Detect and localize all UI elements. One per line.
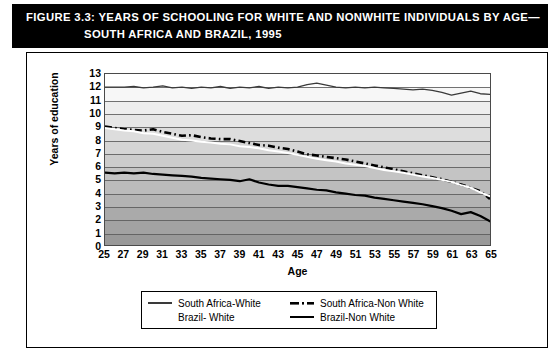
x-tick-label: 51 bbox=[350, 249, 362, 260]
y-axis-tick-labels: 012345678910111213 bbox=[76, 73, 101, 246]
x-tick-label: 65 bbox=[485, 249, 497, 260]
x-tick-label: 29 bbox=[137, 249, 149, 260]
x-tick-label: 35 bbox=[195, 249, 207, 260]
y-tick-label: 9 bbox=[95, 121, 101, 132]
y-tick-label: 1 bbox=[95, 227, 101, 238]
y-tick-label: 4 bbox=[95, 188, 101, 199]
series-line bbox=[105, 83, 490, 95]
legend-item-south-africa-white: South Africa-White bbox=[148, 298, 290, 309]
x-tick-label: 39 bbox=[234, 249, 246, 260]
x-tick-label: 45 bbox=[292, 249, 304, 260]
legend-label: Brazil-Non White bbox=[320, 312, 395, 323]
chart-legend: South Africa-White South Africa-Non Whit… bbox=[141, 291, 437, 329]
x-tick-label: 49 bbox=[330, 249, 342, 260]
chart-panel: Years of education 012345678910111213 25… bbox=[26, 52, 548, 348]
y-tick-label: 6 bbox=[95, 161, 101, 172]
legend-swatch-thick-line-black bbox=[290, 312, 314, 322]
plot-area bbox=[104, 73, 491, 246]
legend-label: South Africa-Non White bbox=[320, 298, 424, 309]
x-tick-label: 63 bbox=[466, 249, 478, 260]
legend-item-brazil-non-white: Brazil-Non White bbox=[290, 312, 395, 323]
x-tick-label: 61 bbox=[446, 249, 458, 260]
y-tick-label: 10 bbox=[89, 108, 101, 119]
figure-container: FIGURE 3.3: YEARS OF SCHOOLING FOR WHITE… bbox=[0, 0, 560, 356]
legend-label: South Africa-White bbox=[178, 298, 261, 309]
legend-label: Brazil- White bbox=[178, 312, 235, 323]
x-tick-label: 31 bbox=[156, 249, 168, 260]
y-tick-label: 13 bbox=[89, 68, 101, 79]
x-tick-label: 47 bbox=[311, 249, 323, 260]
figure-title-line-1: FIGURE 3.3: YEARS OF SCHOOLING FOR WHITE… bbox=[26, 9, 538, 26]
x-tick-label: 41 bbox=[253, 249, 265, 260]
y-tick-label: 8 bbox=[95, 134, 101, 145]
x-axis-title: Age bbox=[104, 265, 491, 277]
y-tick-label: 12 bbox=[89, 81, 101, 92]
x-tick-label: 33 bbox=[176, 249, 188, 260]
legend-swatch-dash-dot-line-black bbox=[290, 298, 314, 308]
figure-title-line-2: SOUTH AFRICA AND BRAZIL, 1995 bbox=[26, 26, 538, 43]
legend-row: South Africa-White South Africa-Non Whit… bbox=[148, 296, 430, 310]
y-tick-label: 7 bbox=[95, 148, 101, 159]
y-axis-title: Years of education bbox=[48, 64, 60, 174]
y-tick-label: 2 bbox=[95, 214, 101, 225]
figure-title-bar: FIGURE 3.3: YEARS OF SCHOOLING FOR WHITE… bbox=[12, 4, 548, 48]
legend-swatch-thin-line-gray bbox=[148, 298, 172, 308]
x-tick-label: 59 bbox=[427, 249, 439, 260]
legend-item-south-africa-non-white: South Africa-Non White bbox=[290, 298, 424, 309]
figure-title-text-1: YEARS OF SCHOOLING FOR WHITE AND NONWHIT… bbox=[98, 11, 539, 23]
x-axis-tick-labels: 2527293133353739414345474951535557596163… bbox=[104, 249, 491, 263]
figure-number-label: FIGURE 3.3: bbox=[26, 11, 95, 23]
y-tick-label: 11 bbox=[90, 94, 101, 105]
legend-item-brazil-white: Brazil- White bbox=[148, 312, 290, 323]
x-tick-label: 37 bbox=[214, 249, 226, 260]
x-tick-label: 25 bbox=[98, 249, 110, 260]
series-line bbox=[105, 173, 490, 222]
legend-row: Brazil- White Brazil-Non White bbox=[148, 310, 430, 324]
y-tick-label: 3 bbox=[95, 201, 101, 212]
legend-swatch-thin-line-white bbox=[148, 312, 172, 322]
y-tick-label: 5 bbox=[95, 174, 101, 185]
x-tick-label: 27 bbox=[118, 249, 130, 260]
plot-area-wrapper bbox=[104, 73, 491, 246]
x-tick-label: 43 bbox=[272, 249, 284, 260]
series-lines bbox=[105, 74, 490, 245]
x-tick-label: 55 bbox=[388, 249, 400, 260]
x-tick-label: 53 bbox=[369, 249, 381, 260]
x-tick-label: 57 bbox=[408, 249, 420, 260]
